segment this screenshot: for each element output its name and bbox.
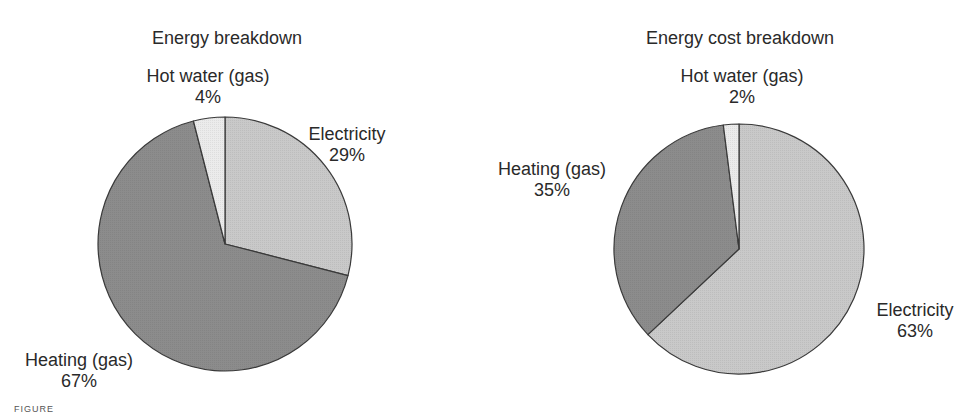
figure-caption: FIGURE	[14, 404, 54, 412]
label-left-electricity: Electricity 29%	[308, 124, 385, 166]
label-right-heating: Heating (gas) 35%	[498, 159, 606, 201]
label-left-hot-water: Hot water (gas) 4%	[146, 66, 269, 108]
label-left-heating: Heating (gas) 67%	[25, 350, 133, 392]
label-right-electricity: Electricity 63%	[876, 300, 953, 342]
pie-charts	[0, 0, 977, 412]
pie-energy-cost-breakdown	[614, 124, 864, 374]
label-right-hot-water: Hot water (gas) 2%	[680, 66, 803, 108]
